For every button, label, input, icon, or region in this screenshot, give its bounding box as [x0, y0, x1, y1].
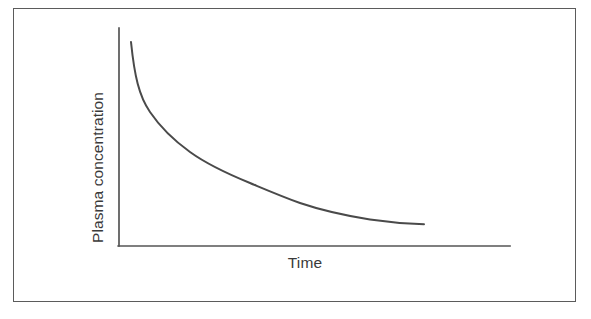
y-axis-title: Plasma concentration: [88, 33, 108, 243]
x-axis-title: Time: [240, 253, 370, 273]
figure-root: Plasma concentration Time: [0, 0, 591, 319]
plasma-concentration-decay-curve: [131, 42, 424, 224]
